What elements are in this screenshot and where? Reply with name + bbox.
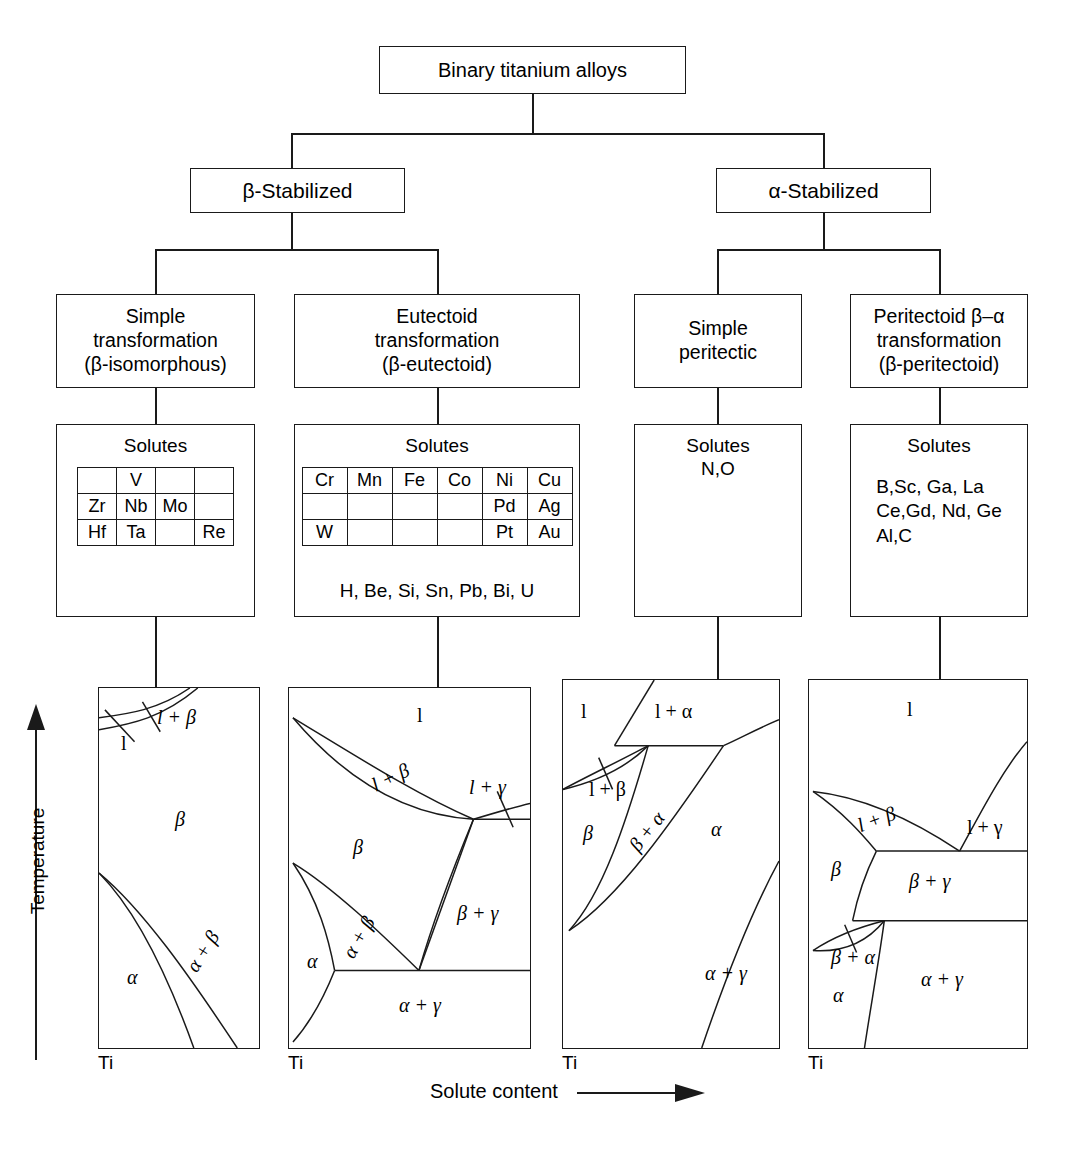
solutes-box-eutectoid[interactable]: Solutes Cr Mn Fe Co Ni Cu Pd Ag (294, 424, 580, 617)
phase-diagram-beta-eutectoid[interactable]: l l + β l + γ β β + γ α α + β α + γ (288, 687, 531, 1049)
node-label-line-3: (β-eutectoid) (382, 353, 492, 377)
table-cell (302, 494, 347, 520)
table-cell (78, 468, 117, 494)
table-cell: Pt (482, 520, 527, 546)
table-cell: Fe (392, 468, 437, 494)
node-label-line-1: Peritectoid β–α (874, 305, 1005, 329)
solutes-box-peritectoid[interactable]: Solutes B,Sc, Ga, La Ce,Gd, Nd, Ge Al,C (850, 424, 1028, 617)
table-cell: Au (527, 520, 572, 546)
table-cell: Pd (482, 494, 527, 520)
table-cell (195, 494, 234, 520)
phase-diagram-curves (289, 688, 530, 1048)
connector-beta-down (291, 213, 293, 250)
node-beta-stabilized[interactable]: β-Stabilized (190, 168, 405, 213)
connector-solutes2-to-diagram (437, 617, 439, 687)
phase-diagram-origin-label: Ti (98, 1052, 113, 1074)
connector-alpha-down (823, 213, 825, 250)
solutes-box-peritectic[interactable]: Solutes N,O (634, 424, 802, 617)
node-label-line-3: (β-peritectoid) (879, 353, 1000, 377)
solutes-extra-line: N,O (701, 457, 735, 481)
solutes-title: Solutes (686, 434, 749, 457)
connector-to-eutectoid-transformation (437, 249, 439, 294)
table-cell (347, 494, 392, 520)
connector-alpha-bus (717, 249, 940, 251)
table-row: Zr Nb Mo (78, 494, 234, 520)
connector-to-alpha-stabilized (823, 133, 825, 168)
table-cell: Mo (156, 494, 195, 520)
solutes-title: Solutes (907, 434, 970, 457)
solute-arrow-icon (577, 1084, 707, 1102)
node-label: α-Stabilized (768, 178, 878, 204)
solutes-extra-line: B,Sc, Ga, La (876, 475, 1002, 499)
connector-to-simple-transformation (155, 249, 157, 294)
phase-diagram-origin-label: Ti (808, 1052, 823, 1074)
table-row: Hf Ta Re (78, 520, 234, 546)
table-cell (392, 520, 437, 546)
table-cell (392, 494, 437, 520)
table-cell (437, 494, 482, 520)
node-simple-transformation[interactable]: Simple transformation (β-isomorphous) (56, 294, 255, 388)
solutes-extra-line: H, Be, Si, Sn, Pb, Bi, U (340, 579, 534, 602)
table-cell (347, 520, 392, 546)
table-cell: W (302, 520, 347, 546)
phase-diagram-beta-isomorphous[interactable]: l l + β β α α + β (98, 687, 260, 1049)
connector-level2-bus (291, 133, 825, 135)
table-row: Pd Ag (302, 494, 572, 520)
node-eutectoid-transformation[interactable]: Eutectoid transformation (β-eutectoid) (294, 294, 580, 388)
node-label-line-1: Simple (126, 305, 186, 329)
table-cell: Ni (482, 468, 527, 494)
solute-axis-label: Solute content (430, 1080, 558, 1102)
table-cell: Cu (527, 468, 572, 494)
temperature-axis: Temperature (14, 700, 58, 1060)
connector-peritectic-to-solutes (717, 388, 719, 424)
table-cell: Mn (347, 468, 392, 494)
table-cell: Ta (117, 520, 156, 546)
node-alpha-stabilized[interactable]: α-Stabilized (716, 168, 931, 213)
table-row: W Pt Au (302, 520, 572, 546)
table-cell: Co (437, 468, 482, 494)
table-cell: Cr (302, 468, 347, 494)
node-label-line-3: (β-isomorphous) (84, 353, 226, 377)
table-cell: V (117, 468, 156, 494)
table-cell: Nb (117, 494, 156, 520)
solutes-title: Solutes (405, 434, 468, 457)
table-cell (156, 520, 195, 546)
phase-diagram-origin-label: Ti (562, 1052, 577, 1074)
node-simple-peritectic[interactable]: Simple peritectic (634, 294, 802, 388)
connector-root-down (532, 94, 534, 134)
solutes-extra-line: Al,C (876, 524, 1002, 548)
phase-diagram-simple-peritectic[interactable]: l l + α l + β β β + α α α + γ (562, 679, 780, 1049)
node-binary-titanium-alloys[interactable]: Binary titanium alloys (379, 46, 686, 94)
table-cell: Ag (527, 494, 572, 520)
table-row: V (78, 468, 234, 494)
diagram-canvas: Binary titanium alloys β-Stabilized α-St… (0, 0, 1066, 1149)
table-cell: Re (195, 520, 234, 546)
solutes-title: Solutes (124, 434, 187, 457)
node-label-line-1: Simple (688, 317, 748, 341)
solutes-box-isomorphous[interactable]: Solutes V Zr Nb Mo Hf Ta (56, 424, 255, 617)
connector-peritectoid-to-solutes (939, 388, 941, 424)
connector-to-peritectoid (939, 249, 941, 294)
connector-solutes1-to-diagram (155, 617, 157, 687)
table-cell: Zr (78, 494, 117, 520)
table-cell: Hf (78, 520, 117, 546)
solutes-extra-line: Ce,Gd, Nd, Ge (876, 499, 1002, 523)
table-cell (156, 468, 195, 494)
connector-beta-bus (155, 249, 438, 251)
phase-diagram-curves (563, 680, 779, 1048)
node-label-line-2: transformation (93, 329, 218, 353)
phase-diagram-origin-label: Ti (288, 1052, 303, 1074)
node-label: β-Stabilized (242, 178, 352, 204)
table-cell (195, 468, 234, 494)
node-label-line-1: Eutectoid (396, 305, 477, 329)
connector-solutes4-to-diagram (939, 617, 941, 687)
node-label-line-2: transformation (375, 329, 500, 353)
node-peritectoid-transformation[interactable]: Peritectoid β–α transformation (β-perite… (850, 294, 1028, 388)
phase-diagram-beta-peritectoid[interactable]: l l + β l + γ β β + γ β + α α α + γ (808, 679, 1028, 1049)
table-cell (437, 520, 482, 546)
node-label-line-2: peritectic (679, 341, 757, 365)
node-label: Binary titanium alloys (438, 58, 627, 82)
connector-solutes3-to-diagram (717, 617, 719, 687)
solutes-element-table: V Zr Nb Mo Hf Ta Re (77, 467, 234, 546)
solutes-element-table: Cr Mn Fe Co Ni Cu Pd Ag W (302, 467, 573, 546)
